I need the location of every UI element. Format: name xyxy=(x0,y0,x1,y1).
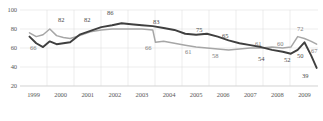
y-axis-tick-label: 60 xyxy=(0,45,17,52)
data-point-label: 75 xyxy=(196,27,202,34)
data-line-dark xyxy=(29,23,316,68)
data-point-label: 39 xyxy=(302,73,308,80)
data-point-label: 61 xyxy=(255,41,261,48)
data-point-label: 66 xyxy=(30,45,36,52)
data-point-label: 83 xyxy=(153,19,159,26)
data-point-label: 72 xyxy=(297,26,303,33)
x-axis-tick-label: 2006 xyxy=(209,92,237,99)
data-point-label: 61 xyxy=(185,49,191,56)
x-axis-tick-label: 2009 xyxy=(290,92,318,99)
data-point-label: 58 xyxy=(212,53,218,60)
data-point-label: 86 xyxy=(107,10,113,17)
y-axis-tick-label: 20 xyxy=(0,83,17,90)
x-axis-tick-label: 2007 xyxy=(236,92,264,99)
x-axis-tick-label: 2000 xyxy=(47,92,75,99)
y-axis-tick-label: 40 xyxy=(0,64,17,71)
x-axis-tick-label: 2001 xyxy=(74,92,102,99)
x-axis-tick-label: 1999 xyxy=(20,92,48,99)
x-axis-tick-label: 2005 xyxy=(182,92,210,99)
data-point-label: 50 xyxy=(297,53,303,60)
x-axis-tick-label: 2008 xyxy=(263,92,291,99)
data-point-label: 60 xyxy=(277,41,283,48)
data-point-label: 82 xyxy=(58,17,64,24)
y-axis-tick-label: 100 xyxy=(0,7,17,14)
data-point-label: 67 xyxy=(311,48,317,55)
line-chart: 10080604020 1999200020012002200320042005… xyxy=(0,0,323,121)
data-point-label: 82 xyxy=(84,17,90,24)
data-point-label: 65 xyxy=(222,33,228,40)
data-point-label: 52 xyxy=(284,57,290,64)
gridlines xyxy=(20,10,318,86)
x-axis-tick-label: 2002 xyxy=(101,92,129,99)
x-axis-tick-label: 2003 xyxy=(128,92,156,99)
y-axis-tick-label: 80 xyxy=(0,26,17,33)
x-axis-tick-label: 2004 xyxy=(155,92,183,99)
chart-plot-area xyxy=(0,0,323,121)
data-point-label: 54 xyxy=(258,56,264,63)
data-point-label: 66 xyxy=(145,45,151,52)
